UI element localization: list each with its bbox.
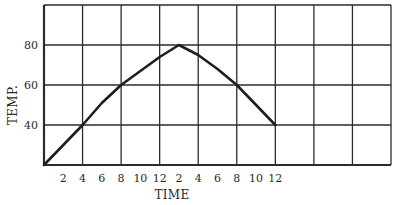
y-axis-tick-labels: 406080 [24, 39, 38, 132]
y-tick-label: 60 [24, 79, 38, 92]
temperature-line-chart: 406080 2468101224681012 TEMP. TIME [0, 0, 395, 205]
y-tick-label: 40 [24, 119, 38, 132]
x-tick-label: 12 [153, 172, 167, 185]
x-tick-label: 8 [233, 172, 240, 185]
x-tick-label: 8 [118, 172, 125, 185]
x-tick-label: 6 [98, 172, 105, 185]
x-tick-label: 6 [214, 172, 221, 185]
y-axis-title: TEMP. [6, 85, 20, 125]
chart-grid [44, 5, 391, 165]
x-tick-label: 2 [60, 172, 67, 185]
x-tick-label: 2 [175, 172, 182, 185]
x-tick-label: 10 [133, 172, 147, 185]
x-tick-label: 4 [79, 172, 86, 185]
x-tick-label: 12 [268, 172, 282, 185]
y-tick-label: 80 [24, 39, 38, 52]
x-axis-tick-labels: 2468101224681012 [60, 172, 283, 185]
x-tick-label: 10 [249, 172, 263, 185]
x-tick-label: 4 [195, 172, 202, 185]
x-axis-title: TIME [155, 188, 190, 202]
